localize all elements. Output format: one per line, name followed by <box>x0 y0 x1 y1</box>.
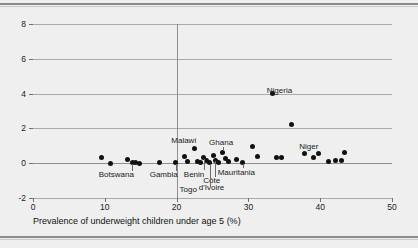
point-label: Nigeria <box>267 86 292 95</box>
data-point <box>333 158 338 163</box>
data-point <box>339 158 344 163</box>
x-axis-title: Prevalence of underweight children under… <box>33 216 241 226</box>
x-tick-mark-20 <box>177 198 178 202</box>
point-label: Ghana <box>209 138 233 147</box>
y-tick-mark-6 <box>29 59 33 60</box>
y-tick-label--2: -2 <box>0 194 26 202</box>
point-label: Niger <box>299 142 318 151</box>
y-tick-mark-8 <box>29 24 33 25</box>
y-tick-mark-4 <box>29 94 33 95</box>
data-point <box>198 160 203 165</box>
data-point <box>342 150 347 155</box>
label-leader-line <box>210 164 211 187</box>
data-point <box>192 146 197 151</box>
data-point <box>234 157 239 162</box>
data-point <box>316 151 321 156</box>
data-point <box>99 155 104 160</box>
point-label: Botswana <box>99 170 134 179</box>
x-tick-mark-30 <box>248 198 249 202</box>
point-label: d'Ivoire <box>199 183 225 192</box>
label-leader-line <box>223 147 224 151</box>
x-tick-label-50: 50 <box>377 203 407 212</box>
point-label: Togo <box>180 185 197 194</box>
x-tick-mark-50 <box>392 198 393 202</box>
data-point <box>250 144 255 149</box>
x-tick-mark-10 <box>105 198 106 202</box>
label-leader-line <box>195 146 196 147</box>
gridline-y--2 <box>33 198 392 199</box>
y-tick-mark-0 <box>29 163 33 164</box>
data-point <box>220 150 225 155</box>
scatter-plot: -20246801020304050NigeriaNigerMalawiGhan… <box>0 0 418 248</box>
bottom-rule <box>0 236 418 238</box>
data-point <box>279 155 284 160</box>
data-point <box>157 160 162 165</box>
bottom-rule-shadow <box>0 239 418 240</box>
data-point <box>302 151 307 156</box>
y-tick-mark-2 <box>29 128 33 129</box>
data-point <box>255 154 260 159</box>
y-tick-label-2: 2 <box>0 124 26 132</box>
gridline-y-6 <box>33 59 392 60</box>
point-label: Mauritania <box>218 168 255 177</box>
data-point <box>137 161 142 166</box>
point-label: Gambia <box>150 170 178 179</box>
gridline-y-8 <box>33 24 392 25</box>
data-point <box>226 159 231 164</box>
y-tick-label-4: 4 <box>0 90 26 98</box>
x-tick-label-30: 30 <box>233 203 263 212</box>
x-tick-label-0: 0 <box>18 203 48 212</box>
data-point <box>311 155 316 160</box>
x-tick-label-40: 40 <box>305 203 335 212</box>
y-tick-label-0: 0 <box>0 159 26 167</box>
gridline-y-2 <box>33 128 392 129</box>
gridline-y-4 <box>33 94 392 95</box>
label-leader-line <box>204 159 205 170</box>
label-leader-line <box>176 164 177 170</box>
point-label: Benin <box>184 170 204 179</box>
zero-line <box>33 163 392 164</box>
x-tick-mark-40 <box>320 198 321 202</box>
data-point <box>289 122 294 127</box>
data-point <box>326 159 331 164</box>
x-tick-label-20: 20 <box>162 203 192 212</box>
label-leader-line <box>243 164 244 169</box>
x-tick-label-10: 10 <box>90 203 120 212</box>
y-tick-label-6: 6 <box>0 55 26 63</box>
label-leader-line <box>132 164 133 170</box>
data-point <box>108 161 113 166</box>
point-label: Malawi <box>171 136 196 145</box>
figure-panel: -20246801020304050NigeriaNigerMalawiGhan… <box>0 0 418 248</box>
label-leader-line <box>215 161 216 177</box>
x-tick-mark-0 <box>33 198 34 202</box>
y-tick-label-8: 8 <box>0 20 26 28</box>
